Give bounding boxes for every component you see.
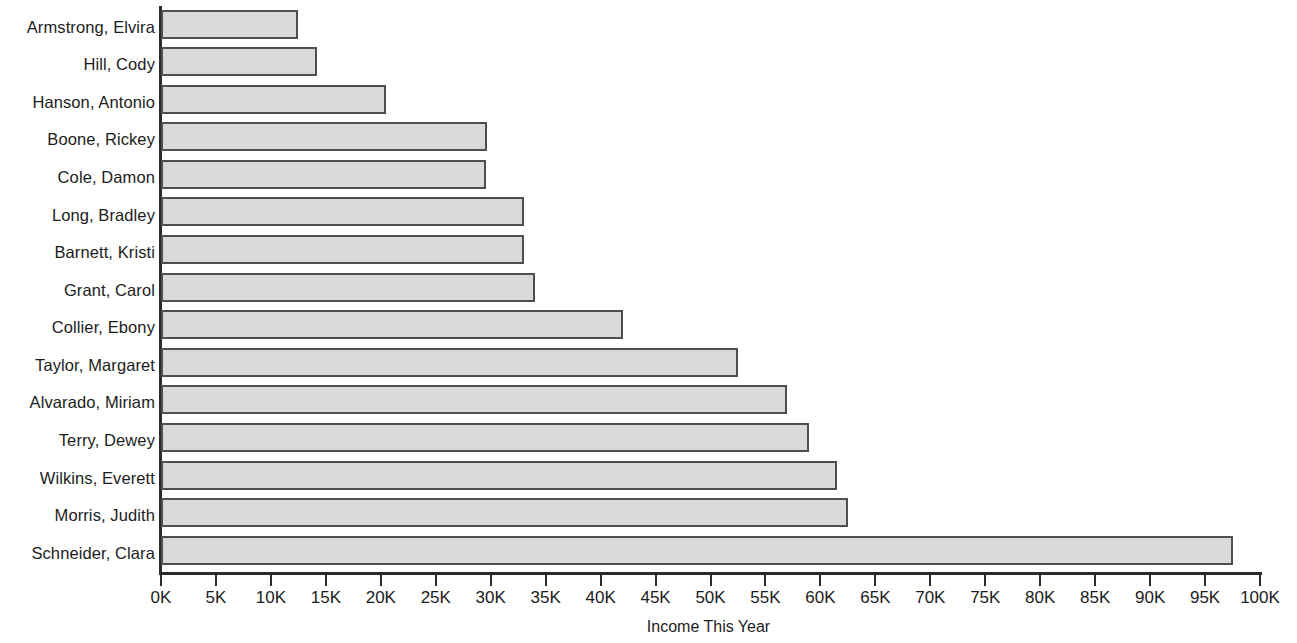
bar-category-label: Barnett, Kristi <box>0 244 155 261</box>
x-axis-tick-label: 60K <box>805 588 835 608</box>
x-axis-tick-label: 95K <box>1190 588 1220 608</box>
x-axis-tick <box>1259 575 1261 586</box>
x-axis-tick <box>325 575 327 586</box>
bar-row: Boone, Rickey <box>0 121 1297 159</box>
x-axis-tick <box>160 575 162 586</box>
bar[interactable] <box>161 273 535 302</box>
plot-area: Armstrong, ElviraHill, CodyHanson, Anton… <box>0 0 1297 580</box>
x-axis-tick <box>1094 575 1096 586</box>
bar-row: Morris, Judith <box>0 497 1297 535</box>
bar-row: Armstrong, Elvira <box>0 8 1297 46</box>
x-axis-tick-label: 80K <box>1025 588 1055 608</box>
x-axis-tick-label: 55K <box>750 588 780 608</box>
bar-category-label: Hill, Cody <box>0 56 155 73</box>
x-axis-tick-label: 85K <box>1080 588 1110 608</box>
x-axis-tick-label: 50K <box>695 588 725 608</box>
x-axis-title-wrap: Income This Year <box>0 618 1297 636</box>
bar[interactable] <box>161 423 809 452</box>
x-axis-tick-label: 15K <box>311 588 341 608</box>
bar[interactable] <box>161 348 738 377</box>
bar-row: Long, Bradley <box>0 196 1297 234</box>
bar-chart: Armstrong, ElviraHill, CodyHanson, Anton… <box>0 0 1297 643</box>
x-axis-tick-label: 75K <box>970 588 1000 608</box>
bar[interactable] <box>161 536 1233 565</box>
x-axis-tick <box>819 575 821 586</box>
bar[interactable] <box>161 310 623 339</box>
bar[interactable] <box>161 10 298 39</box>
bar[interactable] <box>161 122 487 151</box>
bar-row: Hill, Cody <box>0 46 1297 84</box>
x-axis-tick <box>655 575 657 586</box>
bar-category-label: Long, Bradley <box>0 207 155 224</box>
bar[interactable] <box>161 235 524 264</box>
bar-rows: Armstrong, ElviraHill, CodyHanson, Anton… <box>0 8 1297 572</box>
bar-category-label: Schneider, Clara <box>0 545 155 562</box>
bar[interactable] <box>161 197 524 226</box>
bar-row: Schneider, Clara <box>0 534 1297 572</box>
x-axis-tick <box>1039 575 1041 586</box>
bar-category-label: Grant, Carol <box>0 282 155 299</box>
bar[interactable] <box>161 85 386 114</box>
bar-category-label: Taylor, Margaret <box>0 357 155 374</box>
bar-row: Grant, Carol <box>0 271 1297 309</box>
bar-row: Collier, Ebony <box>0 309 1297 347</box>
x-axis-tick <box>764 575 766 586</box>
x-axis-tick <box>270 575 272 586</box>
x-axis-tick <box>435 575 437 586</box>
bar-row: Alvarado, Miriam <box>0 384 1297 422</box>
x-axis-tick-label: 5K <box>206 588 227 608</box>
x-axis-tick <box>929 575 931 586</box>
x-axis-tick-labels: 0K5K10K15K20K25K30K35K40K45K50K55K60K65K… <box>0 588 1297 614</box>
x-axis-tick-label: 70K <box>915 588 945 608</box>
bar-category-label: Boone, Rickey <box>0 131 155 148</box>
x-axis-tick-label: 25K <box>421 588 451 608</box>
bar[interactable] <box>161 461 837 490</box>
x-axis-tick <box>215 575 217 586</box>
x-axis-tick-label: 30K <box>476 588 506 608</box>
x-axis-tick-label: 0K <box>151 588 172 608</box>
x-axis-tick-label: 40K <box>585 588 615 608</box>
x-axis-tick-label: 65K <box>860 588 890 608</box>
x-axis-tick <box>874 575 876 586</box>
bar-category-label: Alvarado, Miriam <box>0 394 155 411</box>
bar-row: Barnett, Kristi <box>0 234 1297 272</box>
bar-category-label: Hanson, Antonio <box>0 94 155 111</box>
x-axis-tick-label: 35K <box>531 588 561 608</box>
bar[interactable] <box>161 385 787 414</box>
bar-category-label: Morris, Judith <box>0 507 155 524</box>
bar[interactable] <box>161 160 486 189</box>
bar-row: Terry, Dewey <box>0 422 1297 460</box>
bar-row: Cole, Damon <box>0 158 1297 196</box>
x-axis-tick-label: 20K <box>366 588 396 608</box>
bar-category-label: Terry, Dewey <box>0 432 155 449</box>
bar-row: Hanson, Antonio <box>0 83 1297 121</box>
bar-category-label: Armstrong, Elvira <box>0 19 155 36</box>
bar-category-label: Collier, Ebony <box>0 319 155 336</box>
bar-category-label: Cole, Damon <box>0 169 155 186</box>
x-axis-tick <box>545 575 547 586</box>
x-axis-tick <box>380 575 382 586</box>
x-axis-tick <box>1149 575 1151 586</box>
bar-row: Wilkins, Everett <box>0 459 1297 497</box>
bar[interactable] <box>161 47 317 76</box>
x-axis-ticks <box>0 575 1297 589</box>
x-axis-tick-label: 90K <box>1135 588 1165 608</box>
x-axis-tick <box>1204 575 1206 586</box>
x-axis-tick <box>600 575 602 586</box>
x-axis-tick-label: 10K <box>256 588 286 608</box>
bar-row: Taylor, Margaret <box>0 346 1297 384</box>
x-axis-tick <box>490 575 492 586</box>
x-axis-tick-label: 45K <box>640 588 670 608</box>
x-axis-title: Income This Year <box>647 618 770 636</box>
x-axis-tick-label: 100K <box>1240 588 1280 608</box>
bar[interactable] <box>161 498 848 527</box>
x-axis-tick <box>984 575 986 586</box>
bar-category-label: Wilkins, Everett <box>0 470 155 487</box>
x-axis-tick <box>710 575 712 586</box>
